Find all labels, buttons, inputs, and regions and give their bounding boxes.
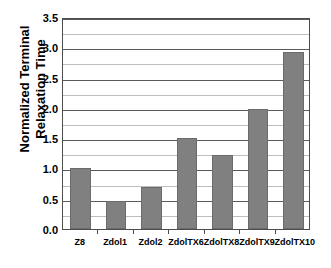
x-tick-label: Zdol2 [133,236,168,248]
y-tick-label: 1.5 [28,133,58,145]
plot-area [62,18,310,230]
x-tick-label: Z8 [62,236,97,248]
bar [212,155,233,230]
bar [106,201,127,229]
y-tick-label: 0.0 [28,224,58,236]
bar-chart-figure: Normalized Terminal Relaxation Time 0.00… [0,0,331,268]
y-tick-label: 3.5 [28,12,58,24]
bar [141,187,162,229]
bar [177,138,198,229]
x-tick [133,230,134,234]
bar [283,52,304,229]
x-axis-tick-labels: Z8Zdol1Zdol2ZdolTX6ZdolTX8ZdolTX9ZdolTX1… [62,236,310,252]
x-tick [97,230,98,234]
bars-group [63,19,309,229]
y-tick-label: 3.0 [28,42,58,54]
x-tick-label: ZdolTX8 [204,236,239,248]
y-axis-tick-labels: 0.00.51.01.52.02.53.03.5 [28,12,58,236]
y-tick-label: 2.5 [28,73,58,85]
bar [70,168,91,229]
x-tick [204,230,205,234]
x-axis-ticks [62,230,310,235]
y-tick-label: 0.5 [28,194,58,206]
x-tick [275,230,276,234]
x-tick-label: ZdolTX6 [168,236,203,248]
x-tick [239,230,240,234]
x-tick-label: ZdolTX10 [275,236,310,248]
x-tick-label: Zdol1 [97,236,132,248]
y-tick-label: 2.0 [28,103,58,115]
bar [248,109,269,229]
y-tick-label: 1.0 [28,163,58,175]
x-tick [168,230,169,234]
x-tick-label: ZdolTX9 [239,236,274,248]
